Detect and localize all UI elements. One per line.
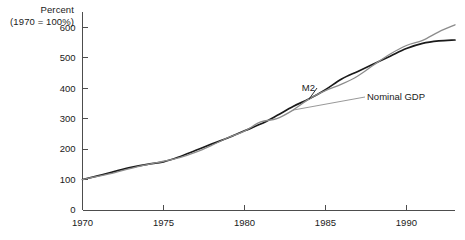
x-axis-ticks: 19701975198019851990 xyxy=(72,205,417,228)
y-axis-title-line1: Percent xyxy=(0,4,74,16)
line-chart-plot: 0100200300400500600 19701975198019851990… xyxy=(0,0,465,240)
x-tick-label: 1970 xyxy=(72,217,93,228)
x-tick-label: 1990 xyxy=(396,217,417,228)
x-tick-label: 1985 xyxy=(315,217,336,228)
y-tick-label: 100 xyxy=(60,174,76,185)
y-tick-label: 300 xyxy=(60,113,76,124)
series-line-m2 xyxy=(83,40,456,180)
y-tick-label: 200 xyxy=(60,143,76,154)
chart-figure: Percent (1970 = 100%) 010020030040050060… xyxy=(0,0,465,240)
series-line-nominal-gdp xyxy=(83,25,456,180)
nominal-gdp-leader-line xyxy=(293,97,365,110)
y-axis-title: Percent (1970 = 100%) xyxy=(0,4,74,28)
y-tick-label: 0 xyxy=(70,204,75,215)
y-axis-ticks: 0100200300400500600 xyxy=(60,22,88,216)
series-label-m2: M2 xyxy=(302,82,315,93)
series-label-nominal-gdp: Nominal GDP xyxy=(367,91,425,102)
x-tick-label: 1980 xyxy=(234,217,255,228)
y-axis-title-line2: (1970 = 100%) xyxy=(0,16,74,28)
y-tick-label: 500 xyxy=(60,52,76,63)
y-tick-label: 400 xyxy=(60,83,76,94)
data-series-group xyxy=(83,25,456,180)
x-tick-label: 1975 xyxy=(153,217,174,228)
